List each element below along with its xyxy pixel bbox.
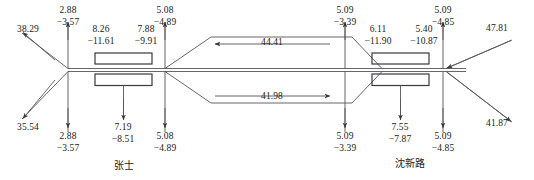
s1-label-internal-left: 8.26 −11.61 (88, 24, 115, 47)
mid-lower-taper-right (352, 72, 382, 104)
s1-bot-right-value-a: 5.08 (156, 131, 173, 143)
s2-bot-right-value-b: −4.85 (432, 143, 454, 155)
s2-bot-left-value-b: −3.39 (334, 143, 356, 155)
mid-upper-taper-left (165, 37, 211, 69)
s1-box-upper (95, 53, 152, 64)
s2-box-lower (372, 74, 429, 86)
s2-top-right-value-a: 5.09 (434, 5, 451, 17)
s1-box-lower (95, 74, 152, 86)
s2-box-upper (372, 53, 429, 64)
s1-bot-left-value-a: 2.88 (59, 131, 76, 143)
arrow-right-bottom-out (447, 72, 511, 122)
mid-lower-taper-left (165, 72, 211, 104)
left-top-approach-line (22, 33, 68, 69)
s2-label-bottom-left: 5.09 −3.39 (334, 131, 356, 154)
arrow-left-bottom-out (23, 80, 55, 119)
s1-bot-center-value-b: −8.51 (112, 134, 134, 146)
label-right-top-in: 47.81 (486, 23, 508, 35)
s1-label-bottom-left: 2.88 −3.57 (57, 131, 79, 154)
label-right-bottom-out: 41.87 (486, 118, 508, 130)
s1-mid-left-value-b: −11.61 (88, 36, 115, 48)
s1-label-bottom-right: 5.08 −4.89 (154, 131, 176, 154)
s1-mid-left-value-a: 8.26 (92, 24, 109, 36)
arrow-right-top-in (447, 41, 511, 69)
station-label-zhangshi: 张士 (114, 157, 134, 172)
s1-label-bottom-center: 7.19 −8.51 (112, 122, 134, 145)
s1-bot-left-value-b: −3.57 (57, 143, 79, 155)
s1-top-left-value-a: 2.88 (59, 5, 76, 17)
s1-mid-right-value-b: −9.91 (135, 36, 157, 48)
s2-bot-center-value-b: −7.87 (389, 134, 411, 146)
s2-top-left-value-b: −3.39 (334, 17, 356, 29)
s2-label-top-left: 5.09 −3.39 (334, 5, 356, 28)
s2-label-internal-left: 6.11 −11.90 (365, 24, 392, 47)
s2-bot-center-value-a: 7.55 (391, 122, 408, 134)
s1-bot-right-value-b: −4.89 (154, 143, 176, 155)
s1-label-internal-right: 7.88 −9.91 (135, 24, 157, 47)
s1-top-right-value-a: 5.08 (156, 5, 173, 17)
s2-top-left-value-a: 5.09 (336, 5, 353, 17)
label-left-top-out: 38.29 (17, 24, 39, 36)
s1-top-left-value-b: −3.57 (57, 17, 79, 29)
arrow-left-top-out (23, 33, 55, 61)
s2-mid-left-value-b: −11.90 (365, 36, 392, 48)
s2-mid-right-value-a: 5.40 (415, 24, 432, 36)
label-left-bottom-out: 35.54 (17, 122, 39, 134)
traffic-flow-diagram: 38.29 35.54 47.81 41.87 44.41 41.98 2.88… (0, 0, 534, 180)
s2-mid-left-value-a: 6.11 (370, 24, 387, 36)
s1-mid-right-value-a: 7.88 (137, 24, 154, 36)
s2-bot-right-value-a: 5.09 (434, 131, 451, 143)
label-corridor-lower: 41.98 (261, 91, 283, 103)
s1-label-top-left: 2.88 −3.57 (57, 5, 79, 28)
s2-label-bottom-center: 7.55 −7.87 (389, 122, 411, 145)
s2-bot-left-value-a: 5.09 (336, 131, 353, 143)
s1-bot-center-value-a: 7.19 (114, 122, 131, 134)
s2-mid-right-value-b: −10.87 (410, 36, 437, 48)
s2-label-bottom-right: 5.09 −4.85 (432, 131, 454, 154)
label-corridor-upper: 44.41 (261, 37, 283, 49)
station-label-shenxinlu: 沈新路 (395, 155, 425, 170)
s2-label-internal-right: 5.40 −10.87 (410, 24, 437, 47)
